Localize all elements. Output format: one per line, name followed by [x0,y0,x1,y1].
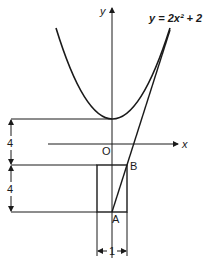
width-label: 1 [109,245,115,257]
point-b-label: B [130,160,137,172]
equation-label: y = 2x² + 2 [148,12,202,24]
origin-label: O [102,145,111,157]
x-axis-label: x [181,138,188,150]
tangent-line [112,30,170,212]
y-axis-label: y [99,5,107,17]
lower-height-label: 4 [7,183,13,195]
upper-height-label: 4 [7,137,13,149]
parabola-diagram: y x O y = 2x² + 2 B A 4 4 1 [0,0,211,261]
point-a-label: A [112,213,120,225]
parabola-curve [56,28,170,119]
